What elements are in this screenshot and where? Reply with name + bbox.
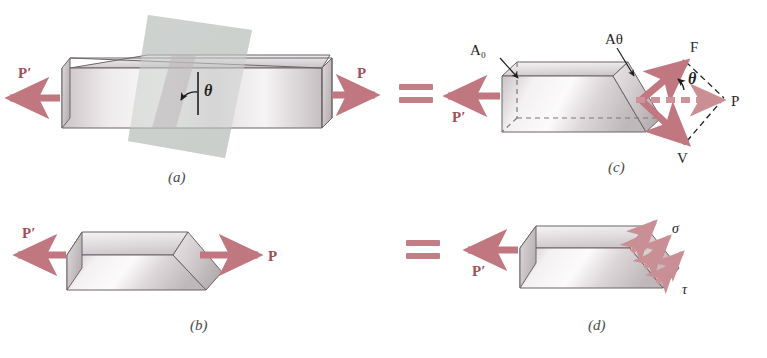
equals-bottom-bar-1 [406,240,440,246]
stress-label-sigma-d: σ [672,221,680,236]
force-label-p-prime-d: P′ [472,263,485,279]
force-label-p-prime-b: P′ [22,225,35,241]
force-label-p-prime-c: P′ [452,109,465,125]
bar-right-end-a [322,58,332,128]
force-label-v-c: V [677,150,688,166]
figure-background [0,0,767,358]
mechanics-figure: P′ P θ (a) A₀ Aθ P′ [0,0,767,358]
force-label-f-c: F [690,39,698,55]
panel-tag-a: (a) [168,169,186,186]
theta-label-a: θ [204,82,213,99]
panel-tag-d: (d) [588,317,606,334]
theta-label-c: θ [688,70,697,87]
bar-top-face-b [67,232,188,255]
bar-top-face-c [502,62,628,76]
area-label-a0-c: A₀ [470,42,486,58]
bar-left-end-a [62,58,70,128]
equals-top-bar-1 [399,84,433,90]
bar-top-face-d [520,226,645,248]
area-label-atheta-c: Aθ [605,31,623,47]
panel-tag-b: (b) [190,317,208,334]
force-label-p-b: P [268,248,277,264]
equals-bottom-bar-2 [406,253,440,259]
panel-tag-c: (c) [608,159,625,176]
force-label-p-a: P [357,65,366,81]
equals-top-bar-2 [399,97,433,103]
force-label-p-prime-a: P′ [18,65,31,81]
force-label-p-c: P [731,93,739,109]
figure-container: P′ P θ (a) A₀ Aθ P′ [0,0,767,358]
